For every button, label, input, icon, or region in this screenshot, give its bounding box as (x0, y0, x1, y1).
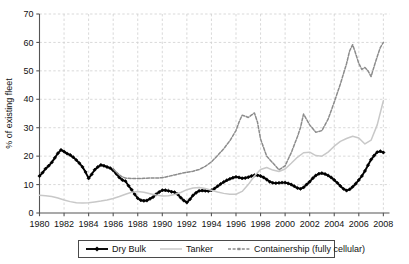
legend-label-tanker: Tanker (186, 244, 213, 254)
y-axis-tick-label: 10 (23, 180, 33, 190)
y-axis-title-label: % of existing fleet (4, 78, 14, 149)
x-axis-tick-label: 1986 (103, 219, 123, 229)
x-axis-tick-label: 2000 (275, 219, 295, 229)
x-axis-tick-label: 1992 (177, 219, 197, 229)
x-axis-tick-label: 1984 (79, 219, 99, 229)
x-axis-tick-label: 1998 (251, 219, 271, 229)
y-axis-tick-label: 0 (28, 208, 33, 218)
y-axis-tick-label: 40 (23, 94, 33, 104)
x-axis-tick-label: 1982 (54, 219, 74, 229)
y-axis-tick-label: 50 (23, 66, 33, 76)
y-axis-tick-label: 70 (23, 9, 33, 19)
legend-marker-dash-icon (238, 248, 241, 250)
chart-legend: Dry BulkTankerContainership (fully cellu… (79, 241, 366, 258)
y-axis-tick-label: 20 (23, 151, 33, 161)
chart-container: 010203040506070 198019821984198619881990… (0, 0, 409, 264)
y-axis-title: % of existing fleet (4, 78, 14, 149)
x-axis-tick-labels: 1980198219841986198819901992199419961998… (29, 219, 393, 229)
x-axis-tick-label: 2006 (349, 219, 369, 229)
legend-label-containership: Containership (fully cellular) (254, 244, 365, 254)
x-axis-tick-label: 1980 (29, 219, 49, 229)
line-chart: 010203040506070 198019821984198619881990… (0, 0, 409, 264)
x-axis-tick-label: 2008 (373, 219, 393, 229)
x-axis-tick-label: 2004 (324, 219, 344, 229)
y-axis-tick-label: 30 (23, 123, 33, 133)
legend-label-dry-bulk: Dry Bulk (112, 244, 147, 254)
x-axis-tick-label: 1990 (152, 219, 172, 229)
x-axis-tick-label: 2002 (300, 219, 320, 229)
x-axis-tick-label: 1988 (128, 219, 148, 229)
x-axis-tick-label: 1994 (201, 219, 221, 229)
x-axis-tick-label: 1996 (226, 219, 246, 229)
y-axis-tick-label: 60 (23, 38, 33, 48)
